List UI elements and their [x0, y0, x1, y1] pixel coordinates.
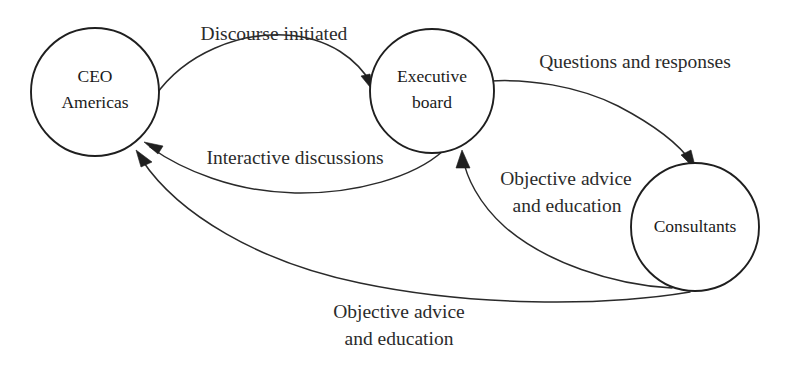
- node-ceo-americas[interactable]: CEO Americas: [31, 28, 159, 156]
- node-consultants-label-line1: Consultants: [654, 216, 737, 236]
- edge-label-objective-advice-to-board-line2: and education: [513, 195, 622, 216]
- edge-label-objective-advice-to-ceo: Objective advice and education: [333, 301, 465, 349]
- node-ceo-americas-label-line1: CEO: [78, 66, 113, 86]
- edge-questions-and-responses: [491, 81, 696, 170]
- node-executive-board[interactable]: Executive board: [370, 29, 494, 153]
- node-executive-board-label-line2: board: [412, 92, 452, 112]
- edge-label-objective-advice-to-ceo-line2: and education: [345, 328, 454, 349]
- node-executive-board-label-line1: Executive: [397, 66, 467, 86]
- edge-objective-advice-to-ceo-arrowhead: [136, 150, 152, 167]
- edge-label-objective-advice-to-board: Objective advice and education: [500, 168, 632, 216]
- edge-label-questions-and-responses: Questions and responses: [539, 51, 731, 72]
- edge-label-interactive-discussions: Interactive discussions: [206, 147, 383, 168]
- edge-label-objective-advice-to-board-line1: Objective advice: [500, 168, 632, 189]
- edge-questions-and-responses-path: [491, 81, 692, 163]
- edge-label-objective-advice-to-ceo-line1: Objective advice: [333, 301, 465, 322]
- diagram-canvas-root: CEO Americas Executive board Consultants…: [0, 0, 796, 372]
- relationship-diagram: CEO Americas Executive board Consultants…: [0, 0, 796, 372]
- node-ceo-americas-label-line2: Americas: [61, 92, 128, 112]
- edge-label-discourse-initiated: Discourse initiated: [201, 23, 348, 44]
- edge-interactive-discussions-arrowhead: [144, 142, 163, 154]
- node-executive-board-circle[interactable]: [370, 29, 494, 153]
- node-consultants[interactable]: Consultants: [631, 163, 759, 291]
- edge-objective-advice-to-board-arrowhead: [456, 150, 470, 168]
